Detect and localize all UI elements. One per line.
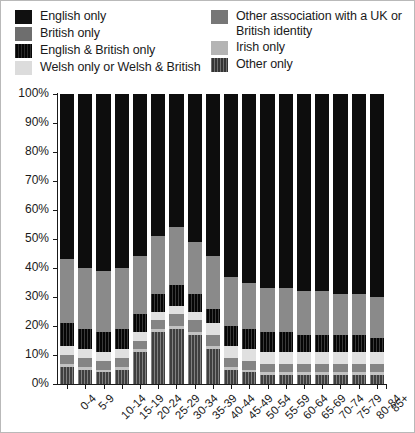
- bar-55-59[interactable]: [260, 94, 274, 384]
- bar-segment-english-british[interactable]: [297, 335, 311, 352]
- bar-segment-other-only[interactable]: [242, 372, 256, 384]
- bar-80-84[interactable]: [352, 94, 366, 384]
- bar-segment-english-british[interactable]: [151, 294, 165, 311]
- bar-segment-british-only[interactable]: [96, 271, 110, 332]
- bar-segment-british-only[interactable]: [188, 242, 202, 294]
- bar-segment-english-only[interactable]: [78, 94, 92, 268]
- bar-segment-other-only[interactable]: [297, 375, 311, 384]
- bar-segment-british-only[interactable]: [260, 288, 274, 332]
- bar-segment-other-assoc[interactable]: [151, 320, 165, 329]
- bar-50-54[interactable]: [242, 94, 256, 384]
- bar-segment-british-only[interactable]: [78, 268, 92, 329]
- bar-segment-welsh[interactable]: [60, 346, 74, 355]
- bar-segment-other-assoc[interactable]: [333, 364, 347, 373]
- bar-segment-english-only[interactable]: [96, 94, 110, 271]
- bar-60-64[interactable]: [279, 94, 293, 384]
- bar-segment-other-assoc[interactable]: [169, 314, 183, 326]
- bar-segment-other-assoc[interactable]: [96, 361, 110, 370]
- bar-segment-english-only[interactable]: [169, 94, 183, 227]
- bar-segment-welsh[interactable]: [151, 312, 165, 321]
- bar-segment-english-british[interactable]: [188, 294, 202, 311]
- bar-segment-british-only[interactable]: [370, 297, 384, 338]
- bar-segment-english-only[interactable]: [206, 94, 220, 256]
- bar-segment-other-only[interactable]: [279, 375, 293, 384]
- bar-segment-other-only[interactable]: [260, 375, 274, 384]
- bar-segment-other-only[interactable]: [133, 352, 147, 384]
- bar-segment-welsh[interactable]: [169, 306, 183, 315]
- bar-segment-english-only[interactable]: [370, 94, 384, 297]
- bar-segment-other-assoc[interactable]: [370, 364, 384, 373]
- bar-segment-other-only[interactable]: [315, 375, 329, 384]
- bar-segment-english-only[interactable]: [224, 94, 238, 277]
- bar-segment-other-assoc[interactable]: [78, 358, 92, 367]
- bar-segment-welsh[interactable]: [260, 352, 274, 364]
- bar-segment-english-only[interactable]: [260, 94, 274, 288]
- legend-item[interactable]: Irish only: [211, 40, 411, 55]
- bar-segment-other-assoc[interactable]: [60, 355, 74, 364]
- bar-segment-english-british[interactable]: [242, 329, 256, 349]
- legend-item[interactable]: Other association with a UK or British i…: [211, 9, 411, 38]
- bar-0-4[interactable]: [60, 94, 74, 384]
- bar-segment-english-only[interactable]: [151, 94, 165, 236]
- legend-item[interactable]: English & British only: [15, 43, 215, 58]
- bar-segment-british-only[interactable]: [60, 259, 74, 323]
- bar-segment-other-only[interactable]: [78, 370, 92, 385]
- bar-segment-other-assoc[interactable]: [242, 361, 256, 370]
- bar-25-29[interactable]: [151, 94, 165, 384]
- bar-segment-british-only[interactable]: [242, 283, 256, 329]
- bar-segment-english-british[interactable]: [96, 332, 110, 352]
- bar-segment-welsh[interactable]: [206, 323, 220, 335]
- bar-5-9[interactable]: [78, 94, 92, 384]
- bar-40-44[interactable]: [206, 94, 220, 384]
- bar-segment-english-british[interactable]: [370, 338, 384, 353]
- bar-segment-other-only[interactable]: [60, 367, 74, 384]
- bar-segment-welsh[interactable]: [78, 349, 92, 358]
- bar-30-34[interactable]: [169, 94, 183, 384]
- bar-segment-welsh[interactable]: [133, 332, 147, 341]
- bar-segment-english-british[interactable]: [78, 329, 92, 349]
- bar-segment-other-assoc[interactable]: [115, 358, 129, 367]
- bar-segment-british-only[interactable]: [297, 291, 311, 335]
- bar-segment-other-only[interactable]: [333, 375, 347, 384]
- bar-segment-other-only[interactable]: [224, 370, 238, 385]
- bar-segment-other-assoc[interactable]: [224, 358, 238, 367]
- bar-segment-welsh[interactable]: [333, 352, 347, 364]
- bar-segment-welsh[interactable]: [224, 346, 238, 358]
- bar-segment-british-only[interactable]: [315, 291, 329, 335]
- bar-segment-other-only[interactable]: [206, 349, 220, 384]
- bar-segment-british-only[interactable]: [224, 277, 238, 326]
- bar-segment-english-only[interactable]: [133, 94, 147, 256]
- bar-segment-english-only[interactable]: [297, 94, 311, 291]
- bar-segment-british-only[interactable]: [279, 288, 293, 332]
- bar-segment-english-british[interactable]: [352, 335, 366, 352]
- bar-segment-english-british[interactable]: [115, 329, 129, 349]
- bar-segment-other-assoc[interactable]: [315, 364, 329, 373]
- bar-segment-english-british[interactable]: [169, 285, 183, 305]
- bar-segment-english-only[interactable]: [115, 94, 129, 268]
- bar-segment-english-only[interactable]: [333, 94, 347, 294]
- bar-segment-welsh[interactable]: [115, 349, 129, 358]
- bar-segment-english-british[interactable]: [206, 309, 220, 324]
- bar-segment-other-only[interactable]: [352, 375, 366, 384]
- bar-segment-other-only[interactable]: [151, 332, 165, 384]
- bar-segment-british-only[interactable]: [151, 236, 165, 294]
- bar-segment-other-assoc[interactable]: [279, 364, 293, 373]
- legend-item[interactable]: Other only: [211, 57, 411, 72]
- bar-segment-welsh[interactable]: [297, 352, 311, 364]
- bar-segment-british-only[interactable]: [206, 256, 220, 308]
- bar-segment-british-only[interactable]: [333, 294, 347, 335]
- bar-segment-english-british[interactable]: [60, 323, 74, 346]
- bar-segment-welsh[interactable]: [352, 352, 366, 364]
- bar-segment-other-only[interactable]: [169, 329, 183, 384]
- bar-20-24[interactable]: [133, 94, 147, 384]
- bar-segment-english-british[interactable]: [224, 326, 238, 346]
- bar-15-19[interactable]: [115, 94, 129, 384]
- bar-segment-welsh[interactable]: [96, 352, 110, 361]
- bar-segment-british-only[interactable]: [115, 268, 129, 329]
- bar-segment-welsh[interactable]: [315, 352, 329, 364]
- legend-item[interactable]: English only: [15, 9, 215, 24]
- bar-segment-british-only[interactable]: [133, 256, 147, 314]
- bar-segment-english-only[interactable]: [242, 94, 256, 283]
- bar-segment-other-assoc[interactable]: [297, 364, 311, 373]
- bar-segment-other-assoc[interactable]: [260, 364, 274, 373]
